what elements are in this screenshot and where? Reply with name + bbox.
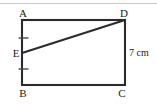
vertex-label-a: A — [19, 7, 27, 19]
vertex-label-e: E — [13, 47, 20, 59]
dimension-label-dc: 7 cm — [129, 47, 149, 58]
vertex-label-d: D — [120, 7, 128, 19]
diagram-canvas: A D B C E 7 cm — [0, 0, 157, 105]
vertex-label-b: B — [19, 87, 26, 99]
geometry-figure: A D B C E 7 cm — [0, 0, 157, 105]
vertex-label-c: C — [118, 87, 125, 99]
